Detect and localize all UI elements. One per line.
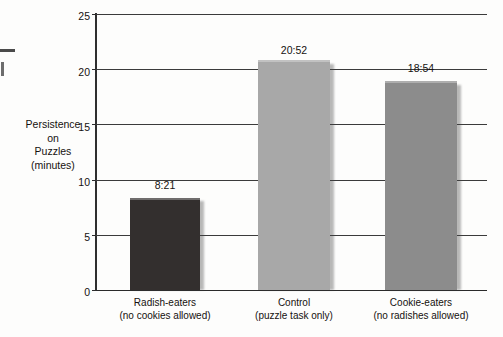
gridline-25 <box>96 14 487 15</box>
category-label-control-line-1: Control <box>224 296 364 309</box>
value-label-control: 20:52 <box>258 44 330 56</box>
bar-cookie-eaters <box>385 81 457 290</box>
bar-body-control <box>258 60 330 290</box>
category-label-control-line-2: (puzzle task only) <box>224 309 364 322</box>
bar-control <box>258 60 330 290</box>
y-tick-label-20: 20 <box>64 66 90 78</box>
y-tick-label-0: 0 <box>64 286 90 298</box>
category-label-radish-eaters-line-2: (no cookies allowed) <box>95 309 235 322</box>
category-label-radish-eaters: Radish-eaters (no cookies allowed) <box>95 296 235 322</box>
value-label-cookie-eaters: 18:54 <box>385 62 457 74</box>
gridline-baseline-0 <box>96 290 487 291</box>
y-axis-title-line-2: on <box>14 132 92 146</box>
bar-body-radish-eaters <box>130 198 200 290</box>
y-tick-label-25: 25 <box>64 10 90 22</box>
bar-highlight-cookie-eaters <box>385 81 457 83</box>
bar-radish-eaters <box>130 198 200 290</box>
bar-chart-figure: Persistence on Puzzles (minutes) 0 5 10 … <box>0 0 503 337</box>
category-label-radish-eaters-line-1: Radish-eaters <box>95 296 235 309</box>
y-axis-title-line-3: Puzzles <box>14 145 92 159</box>
category-label-control: Control (puzzle task only) <box>224 296 364 322</box>
y-tick-label-5: 5 <box>64 231 90 243</box>
bar-body-cookie-eaters <box>385 81 457 290</box>
category-label-cookie-eaters-line-2: (no radishes allowed) <box>351 309 491 322</box>
value-label-radish-eaters: 8:21 <box>130 179 200 191</box>
bar-highlight-control <box>258 60 330 62</box>
bar-highlight-radish-eaters <box>130 198 200 200</box>
category-label-cookie-eaters: Cookie-eaters (no radishes allowed) <box>351 296 491 322</box>
y-tick-label-10: 10 <box>64 176 90 188</box>
category-label-cookie-eaters-line-1: Cookie-eaters <box>351 296 491 309</box>
y-tick-label-15: 15 <box>64 121 90 133</box>
y-axis-title-line-4: (minutes) <box>14 159 92 173</box>
